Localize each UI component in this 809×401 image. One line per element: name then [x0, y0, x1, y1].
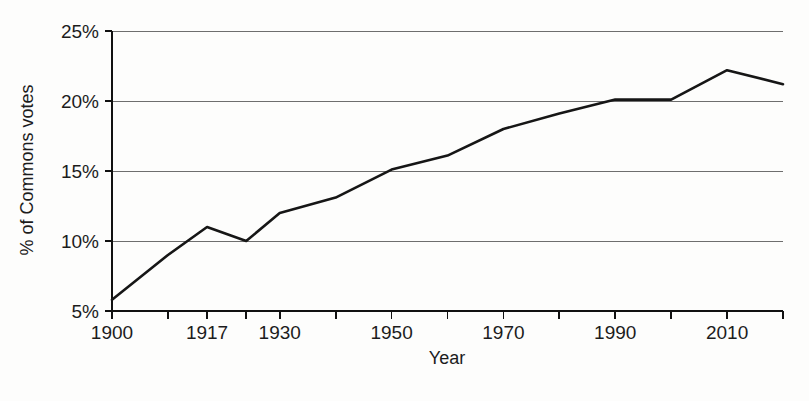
y-tick-label-5: 5%: [72, 301, 100, 322]
x-axis-title: Year: [429, 348, 465, 368]
x-tick-label-1970: 1970: [482, 322, 524, 343]
x-tick-label-1900: 1900: [91, 322, 133, 343]
y-tick-label-10: 10%: [61, 231, 99, 252]
y-tick-label-20: 20%: [61, 91, 99, 112]
x-tick-label-1950: 1950: [370, 322, 412, 343]
x-tick-label-1990: 1990: [594, 322, 636, 343]
x-tick-label-1930: 1930: [259, 322, 301, 343]
y-axis-title: % of Commons votes: [17, 84, 37, 255]
y-tick-label-25: 25%: [61, 21, 99, 42]
x-tick-label-1917: 1917: [186, 322, 228, 343]
chart-canvas: 5%10%15%20%25% 1900191719301950197019902…: [0, 0, 809, 401]
line-chart-figure: 5%10%15%20%25% 1900191719301950197019902…: [0, 0, 809, 401]
x-tick-label-2010: 2010: [706, 322, 748, 343]
y-tick-label-15: 15%: [61, 161, 99, 182]
